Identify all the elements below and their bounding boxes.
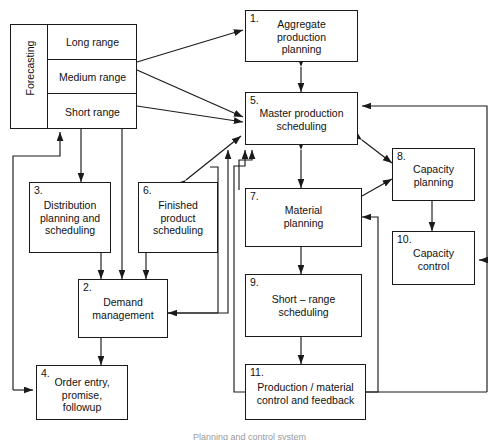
node-1-label: Aggregate production planning <box>246 18 357 56</box>
wire-6-5 <box>186 136 241 180</box>
wire-5-8 <box>362 140 392 163</box>
node-3-number: 3. <box>34 185 43 196</box>
node-6-label: Finished product scheduling <box>139 199 217 237</box>
forecast-row-long-range-label: Long range <box>48 36 137 48</box>
forecast-row-medium-range-label: Medium range <box>48 71 137 83</box>
node-6-finished-product-scheduling[interactable]: 6. Finished product scheduling <box>138 182 218 253</box>
node-7-label: Material planning <box>246 204 361 229</box>
node-9-number: 9. <box>250 277 259 288</box>
wire-4-to-forecast <box>13 132 60 390</box>
node-2-label: Demand management <box>79 296 167 321</box>
node-10-number: 10. <box>397 234 412 245</box>
node-4-label: Order entry, promise, followup <box>37 376 127 414</box>
node-2-number: 2. <box>83 282 92 293</box>
node-3-distribution-planning-scheduling[interactable]: 3. Distribution planning and scheduling <box>29 182 111 253</box>
wire-forecast-short-to-5 <box>137 106 243 122</box>
figure-caption: Planning and control system <box>0 432 499 440</box>
node-2-demand-management[interactable]: 2. Demand management <box>78 279 168 338</box>
node-10-capacity-control[interactable]: 10. Capacity control <box>392 231 475 285</box>
forecasting-group: Forecasting Long range Medium range Shor… <box>10 24 137 129</box>
node-1-aggregate-production-planning[interactable]: 1. Aggregate production planning <box>245 10 358 62</box>
forecasting-title: Forecasting <box>24 20 36 116</box>
node-11-production-material-control-feedback[interactable]: 11. Production / material control and fe… <box>245 364 366 420</box>
node-5-master-production-scheduling[interactable]: 5. Master production scheduling <box>245 92 358 145</box>
node-4-order-entry-promise-followup[interactable]: 4. Order entry, promise, followup <box>36 365 128 420</box>
node-7-material-planning[interactable]: 7. Material planning <box>245 188 362 247</box>
forecast-row-long-range[interactable]: Long range <box>48 24 137 59</box>
node-7-number: 7. <box>250 191 259 202</box>
wire-7-8 <box>362 179 392 196</box>
node-6-number: 6. <box>143 185 152 196</box>
diagram-canvas: Forecasting Long range Medium range Shor… <box>0 0 499 440</box>
forecast-row-short-range-label: Short range <box>48 106 137 118</box>
node-9-label: Short – range scheduling <box>246 293 361 318</box>
node-5-number: 5. <box>250 95 259 106</box>
node-8-label: Capacity planning <box>393 163 474 188</box>
forecast-row-short-range[interactable]: Short range <box>48 94 137 129</box>
node-11-number: 11. <box>250 367 264 378</box>
node-8-capacity-planning[interactable]: 8. Capacity planning <box>392 148 475 201</box>
node-9-short-range-scheduling[interactable]: 9. Short – range scheduling <box>245 274 362 337</box>
node-8-number: 8. <box>397 151 406 162</box>
forecast-row-medium-range[interactable]: Medium range <box>48 59 137 94</box>
forecasting-title-cell: Forecasting <box>10 24 48 129</box>
node-11-label: Production / material control and feedba… <box>246 381 365 406</box>
node-3-label: Distribution planning and scheduling <box>30 199 110 237</box>
node-5-label: Master production scheduling <box>246 107 357 132</box>
wire-forecast-med-to-5 <box>137 70 243 117</box>
wire-forecast-to-1 <box>137 30 243 62</box>
node-10-label: Capacity control <box>393 247 474 272</box>
